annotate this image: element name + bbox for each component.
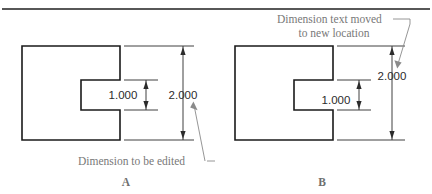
arrowhead-b-overall-bottom [389, 131, 394, 139]
arrowhead-b-slot-top [356, 81, 361, 89]
leader-line-a [194, 105, 215, 161]
panel-a: 1.000 2.000 Dimension to be edited A [22, 46, 215, 188]
arrowhead-b-slot-bottom [356, 101, 361, 109]
part-outline-b [235, 46, 333, 140]
figure-label-b: B [318, 176, 326, 188]
leader-line-b [393, 19, 410, 64]
caption-b-line1: Dimension text moved [277, 13, 382, 25]
arrowhead-a-slot-bottom [143, 101, 148, 109]
dimension-value-b-slot: 1.000 [322, 94, 351, 106]
arrowhead-a-slot-top [143, 81, 148, 89]
figure-label-a: A [122, 176, 131, 188]
panel-b: 1.000 2.000 Dimension text moved to new … [235, 13, 410, 188]
leader-arrowhead-a [190, 102, 197, 111]
dimension-value-a-overall: 2.000 [169, 89, 198, 101]
arrowhead-a-overall-top [180, 47, 185, 55]
arrowhead-a-overall-bottom [180, 131, 185, 139]
technical-drawing-figure: 1.000 2.000 Dimension to be edited A [0, 0, 432, 194]
dimension-value-b-overall: 2.000 [378, 70, 407, 82]
leader-arrowhead-b [394, 60, 401, 68]
caption-b-line2: to new location [299, 27, 370, 39]
arrowhead-b-overall-top [389, 47, 394, 55]
part-outline-a [22, 46, 120, 140]
dimension-value-a-slot: 1.000 [109, 89, 138, 101]
caption-a: Dimension to be edited [78, 155, 185, 167]
